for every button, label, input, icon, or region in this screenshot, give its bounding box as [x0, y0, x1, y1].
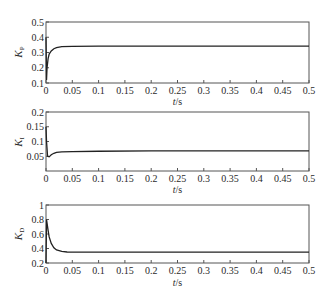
x-tick-label: 0 [44, 265, 49, 276]
x-tick-label: 0.35 [221, 173, 239, 184]
y-tick-label: 0.2 [32, 62, 45, 73]
x-axis-label: t/s [173, 184, 183, 195]
x-tick-label: 0.45 [274, 173, 292, 184]
y-tick-label: 0.5 [32, 17, 45, 28]
x-tick-label: 0 [44, 173, 49, 184]
subplot-kd: 00.050.10.150.20.250.30.350.40.450.50.20… [12, 200, 315, 289]
x-tick-label: 0.4 [250, 265, 263, 276]
x-tick-label: 0.3 [198, 173, 211, 184]
x-tick-label: 0.15 [116, 173, 134, 184]
series-line-kp [46, 37, 309, 80]
y-tick-label: 0.1 [32, 136, 45, 147]
x-tick-label: 0.2 [145, 265, 158, 276]
plot-frame [46, 205, 309, 263]
x-tick-label: 0.3 [198, 265, 211, 276]
x-tick-label: 0.15 [116, 85, 134, 96]
x-axis-label: t/s [173, 96, 183, 107]
subplot-kp: 00.050.10.150.20.250.30.350.40.450.50.10… [12, 17, 315, 108]
x-tick-label: 0.45 [274, 265, 292, 276]
series-line-ki [46, 127, 309, 157]
series-line-kd [46, 220, 309, 264]
x-tick-label: 0.1 [92, 85, 105, 96]
pid-gain-charts: 00.050.10.150.20.250.30.350.40.450.50.10… [0, 0, 331, 302]
y-axis-label: KD [12, 228, 26, 241]
x-tick-label: 0.15 [116, 265, 134, 276]
x-tick-label: 0.45 [274, 85, 292, 96]
x-axis-label: t/s [173, 277, 183, 288]
y-tick-label: 0.1 [32, 78, 45, 89]
x-tick-label: 0.5 [303, 85, 316, 96]
y-tick-label: 0.4 [32, 32, 45, 43]
x-tick-label: 0.05 [64, 173, 82, 184]
y-axis-label: KP [12, 46, 26, 58]
subplot-ki: 00.050.10.150.20.250.30.350.40.450.50.05… [12, 107, 315, 196]
plot-frame [46, 112, 309, 171]
x-tick-label: 0.35 [221, 265, 239, 276]
y-axis-label: KI [12, 137, 26, 148]
y-tick-label: 0.8 [32, 214, 45, 225]
x-tick-label: 0.05 [64, 265, 82, 276]
x-tick-label: 0.2 [145, 85, 158, 96]
x-tick-label: 0.4 [250, 173, 263, 184]
y-tick-label: 0.05 [27, 151, 45, 162]
y-tick-label: 0.2 [32, 258, 45, 269]
x-tick-label: 0.35 [221, 85, 239, 96]
x-tick-label: 0.4 [250, 85, 263, 96]
plot-frame [46, 22, 309, 83]
y-tick-label: 0.4 [32, 243, 45, 254]
x-tick-label: 0 [44, 85, 49, 96]
x-tick-label: 0.05 [64, 85, 82, 96]
x-tick-label: 0.25 [169, 173, 187, 184]
x-tick-label: 0.1 [92, 173, 105, 184]
x-tick-label: 0.5 [303, 173, 316, 184]
x-tick-label: 0.25 [169, 265, 187, 276]
x-tick-label: 0.2 [145, 173, 158, 184]
y-tick-label: 0.6 [32, 229, 45, 240]
y-tick-label: 1 [39, 200, 44, 211]
x-tick-label: 0.3 [198, 85, 211, 96]
y-tick-label: 0.2 [32, 107, 45, 118]
y-tick-label: 0.3 [32, 47, 45, 58]
x-tick-label: 0.5 [303, 265, 316, 276]
x-tick-label: 0.25 [169, 85, 187, 96]
y-tick-label: 0.15 [27, 121, 45, 132]
x-tick-label: 0.1 [92, 265, 105, 276]
